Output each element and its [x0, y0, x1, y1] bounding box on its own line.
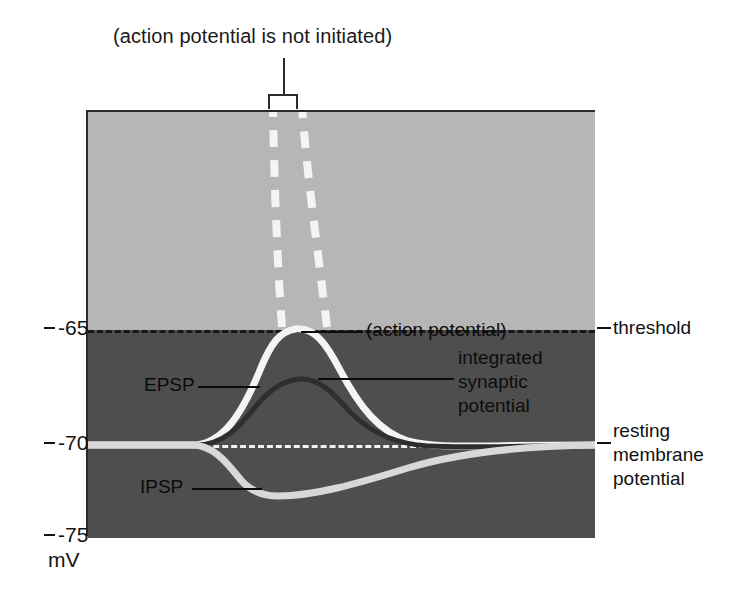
y-tick-dash-icon — [44, 442, 55, 444]
y-tick-65-label: -65 — [58, 316, 88, 339]
y-tick-75: -75 — [44, 523, 88, 547]
resting-potential-leader-line — [597, 442, 611, 444]
integrated-line-1: integrated — [458, 347, 543, 368]
action-potential-leader-line — [301, 331, 363, 333]
action-potential-right-dashed-trace — [302, 112, 327, 327]
integrated-line-2: synaptic — [458, 371, 528, 392]
threshold-label: threshold — [613, 316, 691, 340]
y-tick-70: -70 — [44, 431, 88, 455]
resting-line-3: potential — [613, 468, 685, 489]
y-tick-75-label: -75 — [58, 523, 88, 546]
action-potential-left-dashed-trace — [273, 112, 282, 327]
figure-root: (action potential is not initiated) -65 … — [0, 0, 751, 596]
y-tick-70-label: -70 — [58, 431, 88, 454]
integrated-synaptic-potential-leader-line — [318, 378, 454, 380]
resting-line-1: resting — [613, 420, 670, 441]
y-tick-dash-icon — [44, 534, 55, 536]
caption-bracket — [268, 94, 298, 109]
y-tick-dash-icon — [44, 327, 55, 329]
plot-area: (action potential) EPSP IPSP integrated … — [88, 110, 595, 538]
ipsp-leader-line — [192, 488, 262, 490]
integrated-line-3: potential — [458, 395, 530, 416]
caption-leader-stem — [283, 58, 285, 96]
threshold-leader-line — [597, 327, 611, 329]
resting-line-2: membrane — [613, 444, 704, 465]
figure-top-caption: (action potential is not initiated) — [113, 25, 392, 48]
resting-membrane-potential-label: resting membrane potential — [613, 419, 704, 491]
epsp-leader-line — [198, 386, 260, 388]
y-tick-65: -65 — [44, 316, 88, 340]
integrated-synaptic-potential-annotation: integrated synaptic potential — [458, 346, 543, 418]
action-potential-annotation: (action potential) — [366, 318, 506, 342]
epsp-annotation: EPSP — [144, 373, 195, 397]
ipsp-annotation: IPSP — [140, 475, 183, 499]
y-axis-unit-label: mV — [48, 548, 80, 572]
